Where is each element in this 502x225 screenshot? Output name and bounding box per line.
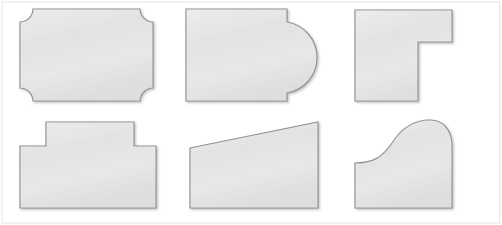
shape-grain-overlay	[20, 9, 452, 208]
shapes-diagram	[0, 0, 502, 225]
grain-shape-4	[20, 122, 156, 208]
grain-shape-2	[186, 9, 317, 101]
grain-shape-6	[355, 120, 452, 208]
grain-shape-1	[20, 9, 153, 101]
figure-canvas	[0, 0, 502, 225]
grain-shape-3	[355, 10, 452, 101]
